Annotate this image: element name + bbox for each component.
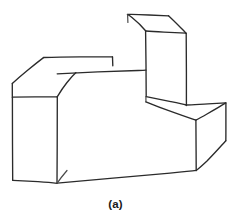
figure-caption: (a): [0, 198, 231, 210]
lower-right-block: [146, 97, 226, 171]
left-block-bottom-edge: [13, 180, 57, 183]
lower-right-top-right-rear-edge: [186, 103, 226, 105]
upper-block-top-front-edge: [146, 31, 186, 33]
lower-right-top-front-right-edge: [196, 103, 226, 120]
figure-panel: (a): [0, 0, 231, 221]
block-sketch-illustration: [0, 0, 231, 221]
upper-block-top-left-edge: [128, 15, 146, 32]
lower-right-bottom-right-edge: [196, 141, 226, 171]
left-block: [12, 57, 146, 183]
left-block-top-right-slant-edge: [57, 73, 76, 97]
base-body: [57, 170, 196, 183]
arm-top-rear-edge: [44, 57, 113, 58]
upper-block-top-face-edge: [128, 14, 169, 15]
upper-block-top-right-edge: [169, 16, 187, 33]
upper-block-front-left-vertical-edge: [146, 31, 147, 96]
upper-rear-block: [128, 14, 187, 105]
base-bottom-front-edge: [57, 170, 196, 183]
base-left-chamfer-edge: [57, 171, 67, 184]
left-block-top-rear-left-edge: [12, 58, 43, 84]
arm-front-top-edge: [57, 70, 146, 74]
